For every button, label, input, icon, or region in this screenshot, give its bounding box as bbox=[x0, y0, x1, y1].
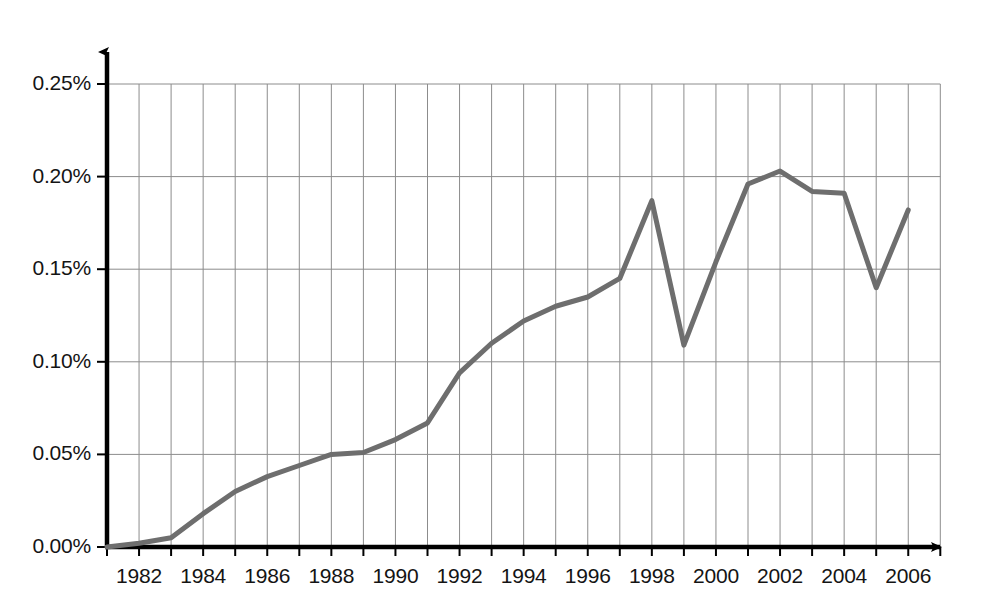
line-chart-figure: 0.00%0.05%0.10%0.15%0.20%0.25% 198219841… bbox=[0, 0, 985, 603]
y-axis-tick-label: 0.10% bbox=[32, 349, 91, 373]
y-axis-tick-label: 0.15% bbox=[32, 256, 91, 280]
y-axis-tick-label: 0.05% bbox=[32, 441, 91, 465]
y-axis-tick-label: 0.20% bbox=[32, 164, 91, 188]
y-axis-tick-label: 0.00% bbox=[32, 534, 91, 558]
x-axis-tick-label: 2006 bbox=[868, 564, 948, 588]
data-series-line bbox=[107, 171, 908, 547]
chart-plot-area bbox=[0, 0, 985, 603]
y-axis-tick-label: 0.25% bbox=[32, 71, 91, 95]
